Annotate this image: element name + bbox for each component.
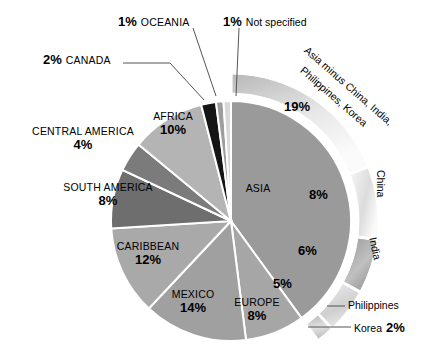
slice-label-europe: EUROPE <box>222 296 292 308</box>
slice-value-mexico: 14% <box>155 300 231 315</box>
slice-label-europe-group: EUROPE 8% <box>222 296 292 323</box>
slice-value-south-america: 8% <box>58 193 158 208</box>
pie-chart-figure: ASIA EUROPE 8% MEXICO 14% CARIBBEAN 12% … <box>0 0 441 361</box>
slice-label-oceania: OCEANIA <box>141 16 190 28</box>
slice-value-caribbean: 12% <box>106 252 190 267</box>
slice-label-caribbean-group: CARIBBEAN 12% <box>106 240 190 267</box>
slice-label-canada: CANADA <box>66 54 111 66</box>
ring-label-korea-group: Korea 2% <box>354 320 405 335</box>
slice-label-south-america: SOUTH AMERICA <box>58 181 158 193</box>
slice-label-canada-group: 2% CANADA <box>43 52 111 67</box>
slice-value-africa: 10% <box>142 122 204 137</box>
slice-value-not-specified: 1% <box>223 14 242 29</box>
slice-label-central-america-group: CENTRAL AMERICA 4% <box>26 125 140 152</box>
ring-label-korea: Korea <box>354 322 382 334</box>
slice-value-central-america: 4% <box>26 137 140 152</box>
ring-segment-china <box>350 168 378 238</box>
leader-oceania <box>193 28 216 96</box>
slice-label-not-specified-group: 1% Not specified <box>223 14 307 29</box>
leader-canada-d <box>170 63 204 100</box>
slice-label-caribbean: CARIBBEAN <box>106 240 190 252</box>
ring-label-philippines: Philippines <box>348 300 399 311</box>
slice-value-oceania: 1% <box>118 14 137 29</box>
ring-value-asia-rest: 19% <box>284 100 310 114</box>
ring-label-china: China <box>375 170 387 197</box>
slice-label-oceania-group: 1% OCEANIA <box>118 14 189 29</box>
ring-value-india: 6% <box>298 244 317 258</box>
slice-label-central-america: CENTRAL AMERICA <box>26 125 140 137</box>
slice-label-south-america-group: SOUTH AMERICA 8% <box>58 181 158 208</box>
ring-value-korea: 2% <box>386 320 405 335</box>
slice-label-not-specified: Not specified <box>246 16 307 28</box>
slice-label-africa: AFRICA <box>142 110 204 122</box>
slice-label-mexico: MEXICO <box>155 288 231 300</box>
slice-label-asia: ASIA <box>228 183 288 194</box>
ring-value-philippines: 5% <box>273 277 292 291</box>
slice-label-africa-group: AFRICA 10% <box>142 110 204 137</box>
slice-value-canada: 2% <box>43 52 62 67</box>
ring-value-china: 8% <box>309 188 328 202</box>
slice-value-europe: 8% <box>222 308 292 323</box>
slice-label-mexico-group: MEXICO 14% <box>155 288 231 315</box>
